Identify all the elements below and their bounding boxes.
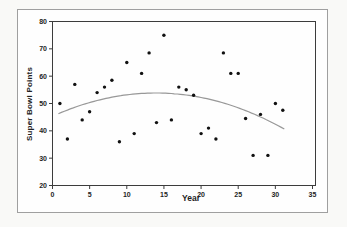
- data-point: [155, 121, 158, 124]
- x-tick-label: 10: [123, 191, 131, 198]
- data-point: [58, 102, 61, 105]
- scatter-plot-svg: 0510152025303520304050607080: [0, 0, 347, 227]
- data-point: [192, 94, 195, 97]
- data-point: [88, 110, 91, 113]
- data-point: [237, 72, 240, 75]
- y-tick-label: 40: [39, 127, 47, 134]
- y-tick-label: 60: [39, 73, 47, 80]
- data-point: [66, 137, 69, 140]
- data-point: [281, 109, 284, 112]
- data-point: [81, 118, 84, 121]
- data-point: [229, 72, 232, 75]
- x-tick-label: 35: [309, 191, 317, 198]
- y-tick-label: 70: [39, 45, 47, 52]
- y-tick-label: 30: [39, 155, 47, 162]
- x-tick-label: 30: [271, 191, 279, 198]
- y-tick-label: 50: [39, 100, 47, 107]
- data-point: [147, 51, 150, 54]
- x-tick-label: 15: [160, 191, 168, 198]
- y-tick-label: 80: [39, 18, 47, 25]
- data-point: [274, 102, 277, 105]
- data-point: [177, 85, 180, 88]
- data-point: [259, 113, 262, 116]
- data-point: [140, 72, 143, 75]
- data-point: [244, 117, 247, 120]
- figure: 0510152025303520304050607080 Super Bowl …: [0, 0, 347, 227]
- data-point: [207, 126, 210, 129]
- x-tick-label: 25: [234, 191, 242, 198]
- data-point: [162, 34, 165, 37]
- data-point: [125, 61, 128, 64]
- data-point: [118, 140, 121, 143]
- data-point: [222, 51, 225, 54]
- x-tick-label: 0: [51, 191, 55, 198]
- data-point: [199, 132, 202, 135]
- y-axis-title: Super Bowl Points: [25, 67, 34, 141]
- data-point: [103, 85, 106, 88]
- data-point: [133, 132, 136, 135]
- x-axis-title: Year: [182, 193, 200, 203]
- data-point: [185, 88, 188, 91]
- data-point: [73, 83, 76, 86]
- y-tick-label: 20: [39, 182, 47, 189]
- data-point: [214, 137, 217, 140]
- data-point: [95, 91, 98, 94]
- data-point: [266, 154, 269, 157]
- data-point: [170, 118, 173, 121]
- data-point: [251, 154, 254, 157]
- x-tick-label: 5: [88, 191, 92, 198]
- data-point: [110, 79, 113, 82]
